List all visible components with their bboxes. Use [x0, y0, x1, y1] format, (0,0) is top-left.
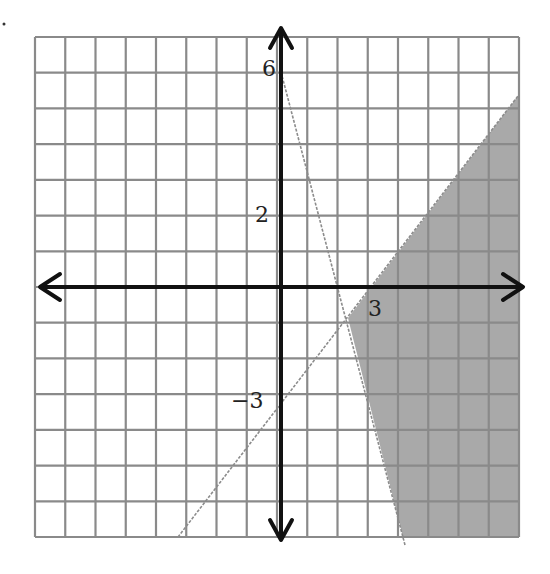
x-tick-label-3: 3	[368, 296, 382, 321]
inequality-graph: 6 2 −3 3	[0, 0, 550, 574]
y-tick-label-6: 6	[262, 56, 276, 81]
y-axis	[270, 28, 292, 540]
y-tick-label-neg3: −3	[231, 388, 263, 413]
y-tick-label-2: 2	[255, 202, 269, 227]
stray-dot	[3, 23, 6, 26]
